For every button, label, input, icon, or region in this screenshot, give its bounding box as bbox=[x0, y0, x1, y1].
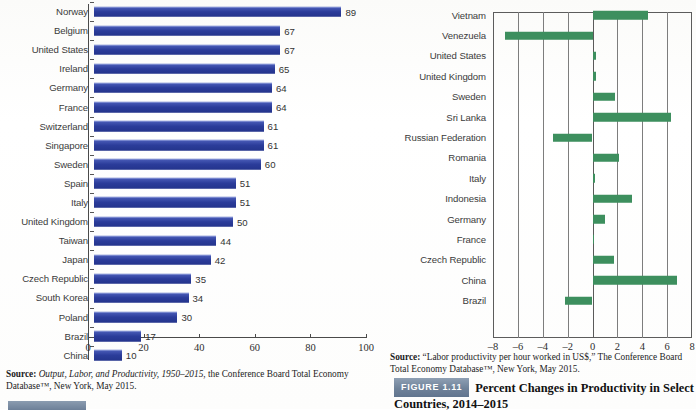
right-chart-bar-track bbox=[493, 189, 696, 209]
left-chart-y-tick bbox=[90, 174, 94, 175]
right-chart-gridline bbox=[667, 12, 668, 338]
right-chart-bar-track bbox=[493, 209, 696, 229]
left-chart-x-tick bbox=[88, 334, 89, 338]
left-chart-bar-row: United States67 bbox=[0, 40, 372, 59]
right-chart-category-label: France bbox=[388, 234, 493, 245]
left-chart-bar-row: South Korea34 bbox=[0, 288, 372, 307]
left-chart-bar bbox=[94, 159, 261, 170]
right-chart-category-label: Indonesia bbox=[388, 193, 493, 204]
right-source-prefix: Source: bbox=[390, 352, 420, 362]
left-chart-bar bbox=[94, 197, 236, 208]
right-chart-category-label: Germany bbox=[388, 214, 493, 225]
left-chart-category-label: Ireland bbox=[0, 63, 94, 74]
left-chart-bar bbox=[94, 83, 272, 94]
left-chart-bar-row: Spain51 bbox=[0, 174, 372, 193]
left-chart-bar-row: United Kingdom50 bbox=[0, 212, 372, 231]
left-chart-category-label: China bbox=[0, 350, 94, 361]
left-chart-bar-track: 64 bbox=[94, 78, 372, 97]
left-chart-bar-track: 61 bbox=[94, 136, 372, 155]
left-chart-bar-track: 64 bbox=[94, 97, 372, 116]
right-chart-category-label: Venezuela bbox=[388, 30, 493, 41]
right-chart-bar-track bbox=[493, 5, 696, 25]
left-chart-bar bbox=[94, 64, 275, 75]
figure-caption: FIGURE 1.11Percent Changes in Productivi… bbox=[394, 378, 694, 412]
left-chart-bar-value: 60 bbox=[261, 159, 276, 170]
left-chart-bar-value: 61 bbox=[264, 121, 279, 132]
left-chart-y-tick bbox=[90, 2, 94, 3]
right-chart-bar bbox=[593, 93, 615, 102]
right-chart-gridline bbox=[617, 12, 618, 338]
left-chart-category-label: Switzerland bbox=[0, 121, 94, 132]
left-chart-bar-value: 44 bbox=[216, 235, 231, 246]
right-chart-bar-track bbox=[493, 270, 696, 290]
left-chart-y-tick bbox=[90, 40, 94, 41]
left-chart-bar bbox=[94, 44, 280, 55]
right-chart-category-label: Sri Lanka bbox=[388, 112, 493, 123]
right-chart-bar-track bbox=[493, 168, 696, 188]
left-chart-bar-row: Taiwan44 bbox=[0, 231, 372, 250]
right-chart-bar-track bbox=[493, 250, 696, 270]
left-source-prefix: Source: bbox=[6, 369, 36, 379]
left-chart-bar-row: Sweden60 bbox=[0, 155, 372, 174]
left-chart-bar-track: 51 bbox=[94, 174, 372, 193]
left-chart-bar-track: 34 bbox=[94, 288, 372, 307]
left-chart-category-label: France bbox=[0, 102, 94, 113]
left-chart-category-label: South Korea bbox=[0, 292, 94, 303]
right-chart-source: Source: “Labor productivity per hour wor… bbox=[390, 351, 694, 376]
left-chart-bar-row: Japan42 bbox=[0, 250, 372, 269]
left-chart-category-label: Spain bbox=[0, 178, 94, 189]
left-chart-y-tick bbox=[90, 78, 94, 79]
right-chart-bar-track bbox=[493, 229, 696, 249]
left-figure-panel: Norway89Belgium67United States67Ireland6… bbox=[0, 0, 378, 409]
productivity-change-bar-chart: VietnamVenezuelaUnited StatesUnited King… bbox=[388, 5, 696, 335]
left-chart-source: Source: Output, Labor, and Productivity,… bbox=[6, 368, 356, 393]
right-chart-bar bbox=[593, 235, 594, 244]
left-chart-bar bbox=[94, 140, 264, 151]
left-chart-y-tick bbox=[90, 212, 94, 213]
left-chart-x-tick-label: 80 bbox=[305, 342, 316, 353]
left-chart-bar-value: 34 bbox=[189, 292, 204, 303]
right-chart-bar bbox=[593, 72, 597, 81]
left-chart-bar-track: 60 bbox=[94, 155, 372, 174]
figure-number-badge: FIGURE 1.11 bbox=[394, 378, 469, 397]
left-chart-y-tick bbox=[90, 288, 94, 289]
left-chart-y-tick bbox=[90, 231, 94, 232]
left-chart-bar-track: 35 bbox=[94, 269, 372, 288]
left-chart-bar-track: 30 bbox=[94, 308, 372, 327]
left-chart-x-tick-label: 40 bbox=[194, 342, 205, 353]
right-chart-category-label: China bbox=[388, 275, 493, 286]
left-chart-x-tick bbox=[310, 334, 311, 338]
left-chart-bar bbox=[94, 274, 191, 285]
right-chart-bar bbox=[553, 133, 593, 142]
left-chart-category-label: Czech Republic bbox=[0, 273, 94, 284]
left-chart-x-tick bbox=[144, 334, 145, 338]
left-chart-bar-value: 61 bbox=[264, 140, 279, 151]
left-chart-bar bbox=[94, 255, 211, 266]
left-chart-bar-row: France64 bbox=[0, 97, 372, 116]
right-chart-bar-track bbox=[493, 107, 696, 127]
right-figure-panel: VietnamVenezuelaUnited StatesUnited King… bbox=[388, 0, 696, 409]
left-chart-rows: Norway89Belgium67United States67Ireland6… bbox=[0, 2, 372, 365]
right-chart-category-label: Czech Republic bbox=[388, 254, 493, 265]
left-chart-bar-value: 89 bbox=[341, 6, 356, 17]
left-chart-bar-row: Singapore61 bbox=[0, 136, 372, 155]
right-source-rest: “Labor productivity per hour worked in U… bbox=[390, 352, 682, 374]
right-chart-bar-track bbox=[493, 87, 696, 107]
left-chart-bar-track: 50 bbox=[94, 212, 372, 231]
left-chart-bar bbox=[94, 121, 264, 132]
left-chart-bar-value: 64 bbox=[272, 102, 287, 113]
right-chart-bar bbox=[593, 215, 605, 224]
right-chart-gridline bbox=[518, 12, 519, 338]
left-chart-bar bbox=[94, 102, 272, 113]
left-figure-badge-partial bbox=[8, 401, 86, 410]
right-chart-category-label: Brazil bbox=[388, 295, 493, 306]
left-chart-category-label: Brazil bbox=[0, 331, 94, 342]
left-chart-category-label: Italy bbox=[0, 197, 94, 208]
left-source-title: Output, Labor, and Productivity, 1950–20… bbox=[39, 369, 204, 379]
left-chart-y-tick bbox=[90, 97, 94, 98]
left-chart-category-label: Poland bbox=[0, 312, 94, 323]
left-chart-x-tick bbox=[366, 334, 367, 338]
left-chart-category-label: Taiwan bbox=[0, 235, 94, 246]
right-chart-bar-track bbox=[493, 46, 696, 66]
left-chart-bar-value: 67 bbox=[280, 44, 295, 55]
